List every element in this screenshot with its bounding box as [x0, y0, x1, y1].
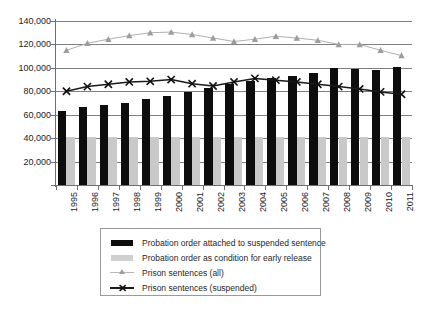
- y-tick-label: 100,000: [18, 63, 51, 72]
- x-tick-mark: [370, 185, 371, 190]
- x-tick-mark: [203, 185, 204, 190]
- legend-item[interactable]: ✕Prison sentences (suspended): [109, 281, 257, 295]
- y-tick-label: 140,000: [18, 17, 51, 26]
- x-tick-mark: [140, 185, 141, 190]
- x-axis-line: [55, 185, 412, 186]
- x-tick-mark: [307, 185, 308, 190]
- series-line: [67, 78, 402, 94]
- x-tick-label-2002: 2002: [217, 192, 226, 212]
- x-tick-label-2010: 2010: [385, 192, 394, 212]
- legend-item-label: Prison sentences (suspended): [142, 283, 257, 293]
- y-tick-label: 120,000: [18, 40, 51, 49]
- x-tick-mark: [265, 185, 266, 190]
- x-tick-mark: [328, 185, 329, 190]
- x-tick-label-1999: 1999: [154, 192, 163, 212]
- y-tick-label: 40,000: [23, 134, 51, 143]
- chart-legend: Probation order attached to suspended se…: [100, 228, 321, 296]
- x-tick-label-1996: 1996: [91, 192, 100, 212]
- legend-item-label: Probation order as condition for early r…: [142, 253, 312, 263]
- legend-item-label: Probation order attached to suspended se…: [142, 238, 326, 248]
- x-tick-mark: [286, 185, 287, 190]
- legend-swatch-triangle-line-icon: [109, 266, 135, 280]
- x-tick-label-2005: 2005: [280, 192, 289, 212]
- x-tick-label-1997: 1997: [112, 192, 121, 212]
- legend-item[interactable]: Prison sentences (all): [109, 266, 224, 280]
- x-tick-label-2007: 2007: [322, 192, 331, 212]
- x-tick-mark: [182, 185, 183, 190]
- x-tick-mark: [412, 185, 413, 190]
- legend-item[interactable]: Probation order as condition for early r…: [109, 251, 312, 265]
- y-tick-label: 60,000: [23, 110, 51, 119]
- x-tick-label-2003: 2003: [238, 192, 247, 212]
- x-tick-label-2004: 2004: [259, 192, 268, 212]
- x-tick-label-2008: 2008: [343, 192, 352, 212]
- x-tick-mark: [119, 185, 120, 190]
- y-axis-labels: 140,000120,000100,00080,00060,00040,0002…: [0, 0, 51, 310]
- legend-item-label: Prison sentences (all): [142, 268, 224, 278]
- legend-item[interactable]: Probation order attached to suspended se…: [109, 236, 326, 250]
- x-tick-mark: [391, 185, 392, 190]
- x-tick-mark: [349, 185, 350, 190]
- x-tick-mark: [161, 185, 162, 190]
- x-tick-label-1995: 1995: [70, 192, 79, 212]
- legend-swatch-black-bar-icon: [109, 236, 135, 250]
- legend-swatch-gray-bar-icon: [109, 251, 135, 265]
- x-tick-label-2009: 2009: [364, 192, 373, 212]
- y-tick-label: 20,000: [23, 157, 51, 166]
- x-tick-label-1998: 1998: [133, 192, 142, 212]
- x-tick-label-2000: 2000: [175, 192, 184, 212]
- x-tick-mark: [224, 185, 225, 190]
- legend-swatch-x-line-icon: ✕: [109, 281, 135, 295]
- x-tick-mark: [98, 185, 99, 190]
- x-tick-label-2011: 2011: [406, 192, 415, 211]
- chart-container: 140,000120,000100,00080,00060,00040,0002…: [0, 0, 423, 310]
- lines-layer: [56, 21, 412, 185]
- x-tick-mark: [244, 185, 245, 190]
- y-tick-label: 80,000: [23, 87, 51, 96]
- x-tick-label-2006: 2006: [301, 192, 310, 212]
- x-tick-label-2001: 2001: [196, 192, 205, 212]
- plot-area: [56, 21, 412, 185]
- x-tick-mark: [77, 185, 78, 190]
- x-tick-mark: [56, 185, 57, 190]
